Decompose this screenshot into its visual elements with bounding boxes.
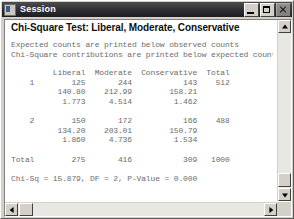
chevron-down-icon bbox=[282, 193, 288, 197]
horizontal-scroll-thumb[interactable] bbox=[19, 203, 33, 216]
chi-square-summary: Chi-Sq = 15.879, DF = 2, P-Value = 0.000 bbox=[11, 174, 273, 184]
scroll-left-button[interactable] bbox=[5, 203, 18, 216]
chevron-left-icon bbox=[9, 207, 13, 213]
vertical-scrollbar[interactable] bbox=[277, 20, 291, 201]
output-notes: Expected counts are printed below observ… bbox=[11, 40, 273, 59]
scrollbar-corner bbox=[277, 202, 291, 216]
minimize-button[interactable] bbox=[244, 3, 259, 17]
session-client-area: Chi-Square Test: Liberal, Moderate, Cons… bbox=[4, 19, 292, 217]
horizontal-scrollbar[interactable] bbox=[5, 202, 291, 216]
table-column-headers: Liberal Moderate Conservative Total bbox=[11, 68, 273, 78]
session-window: Session Chi-Square Test: Liberal, Modera… bbox=[0, 0, 294, 219]
scroll-down-button[interactable] bbox=[278, 188, 291, 201]
scroll-right-button[interactable] bbox=[264, 203, 277, 216]
session-output-pane[interactable]: Chi-Square Test: Liberal, Moderate, Cons… bbox=[5, 20, 273, 201]
output-title: Chi-Square Test: Liberal, Moderate, Cons… bbox=[11, 22, 273, 33]
chevron-right-icon bbox=[269, 207, 273, 213]
window-title-text: Session bbox=[20, 3, 243, 16]
window-title-bar[interactable]: Session bbox=[2, 2, 292, 17]
scroll-up-button[interactable] bbox=[278, 20, 291, 33]
maximize-button[interactable] bbox=[260, 3, 275, 17]
vertical-scroll-thumb[interactable] bbox=[278, 173, 291, 187]
chi-square-table: 1 125 244 143 512 140.80 212.99 158.21 1… bbox=[11, 78, 273, 164]
chevron-up-icon bbox=[282, 24, 288, 28]
minimize-icon bbox=[247, 12, 254, 14]
close-button[interactable] bbox=[276, 3, 291, 17]
session-app-icon bbox=[4, 4, 16, 16]
maximize-icon bbox=[263, 6, 270, 13]
